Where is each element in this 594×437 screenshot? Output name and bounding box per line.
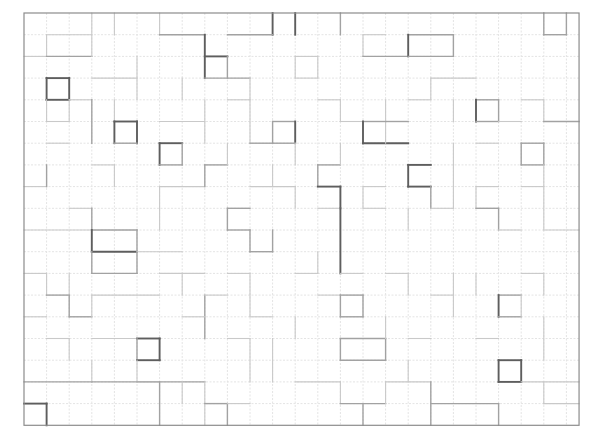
background-grid [24,13,579,425]
maze-border [24,13,579,425]
maze-walls [24,13,579,425]
maze-canvas [0,0,594,437]
